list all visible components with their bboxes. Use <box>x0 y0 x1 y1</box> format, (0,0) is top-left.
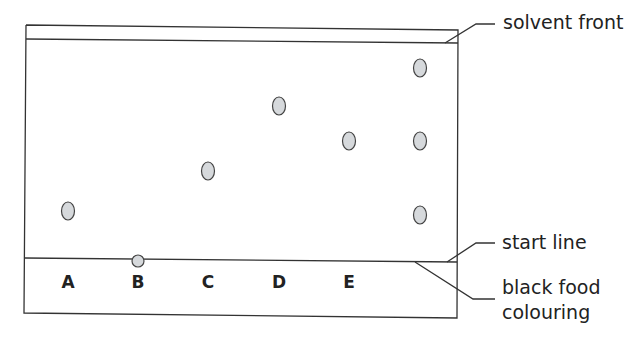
spot <box>414 206 427 224</box>
paper-outline <box>24 25 458 318</box>
solvent-front-line <box>26 39 458 43</box>
spot <box>202 162 215 180</box>
spot <box>343 132 356 150</box>
black-food-colouring-line2: colouring <box>502 300 600 325</box>
start-line-leader <box>447 243 495 262</box>
spot <box>273 97 286 115</box>
solvent-front-label: solvent front <box>503 10 623 35</box>
lane-label: B <box>132 272 145 292</box>
lane-label: E <box>343 272 355 292</box>
start-line-label: start line <box>502 230 587 255</box>
spot <box>62 202 75 220</box>
solvent-front-leader <box>445 24 495 43</box>
lane-label: A <box>61 272 74 292</box>
lane-label: D <box>272 272 286 292</box>
start-line <box>25 258 457 262</box>
spot <box>132 255 144 267</box>
black-food-colouring-label: black food colouring <box>502 275 600 325</box>
black-food-colouring-line1: black food <box>502 275 600 300</box>
spot <box>414 132 427 150</box>
black-food-colouring-leader <box>415 262 495 299</box>
lane-label: C <box>202 272 214 292</box>
spot <box>414 59 427 77</box>
